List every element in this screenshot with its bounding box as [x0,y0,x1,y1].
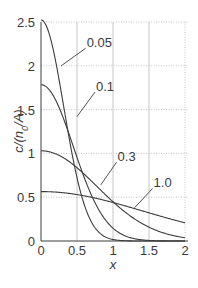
curve-label: 1.0 [154,175,172,190]
y-tick-label: 0 [28,234,35,249]
x-tick-label: 1.5 [140,243,158,258]
x-axis-label: x [109,257,117,272]
x-tick-label: 1 [109,243,116,258]
x-tick-label: 0.5 [68,243,86,258]
leader-line [61,48,85,66]
curve-label: 0.1 [96,79,114,94]
curve-label: 0.3 [118,149,136,164]
grid-lines [41,22,188,241]
curve-label: 0.05 [87,35,112,50]
x-tick-label: 2 [181,243,188,258]
axes [41,22,188,241]
x-tick-labels: 00.511.52 [37,243,188,258]
y-tick-label: 2.5 [17,15,35,30]
y-tick-label: 2 [28,59,35,74]
leader-line [77,92,95,117]
y-tick-label: 0.5 [17,190,35,205]
leader-line [101,162,117,185]
leader-line [135,188,153,207]
x-tick-label: 0 [37,243,44,258]
chart: 00.511.522.5 00.511.52 0.050.10.31.0 x c… [0,0,198,288]
y-tick-label: 1 [28,146,35,161]
